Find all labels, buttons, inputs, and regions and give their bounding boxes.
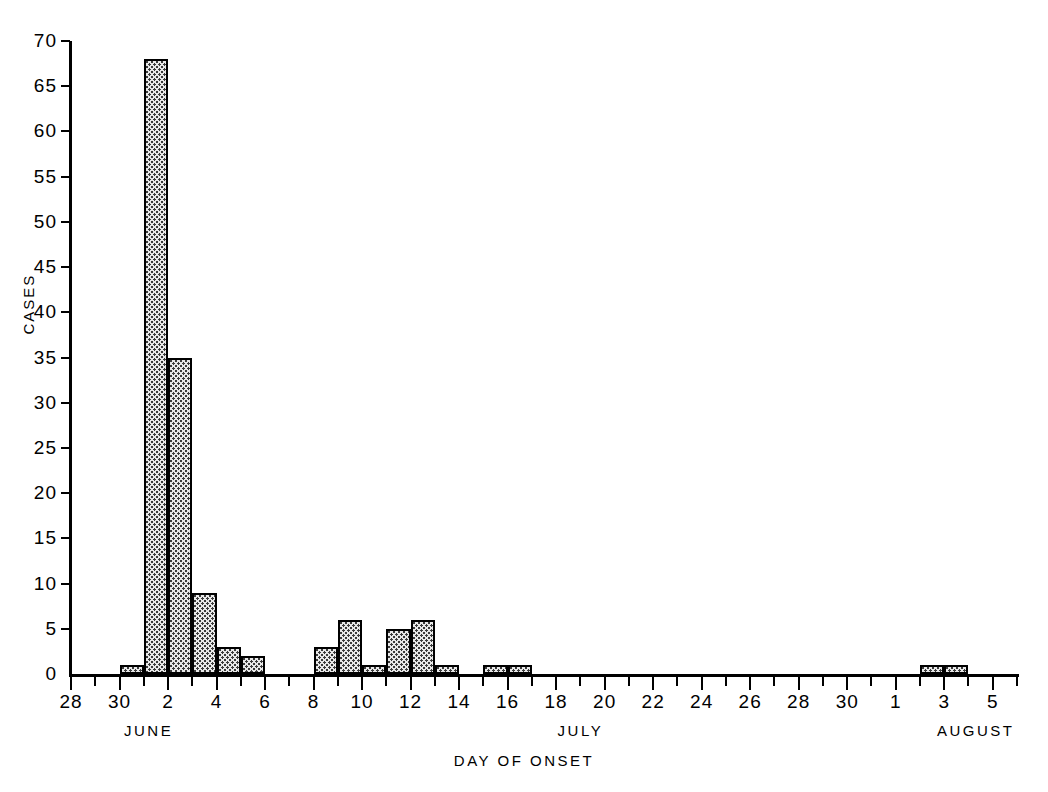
y-tick-mark	[61, 537, 70, 539]
bar	[386, 629, 410, 674]
x-tick-label: 18	[536, 691, 576, 713]
y-tick-label: 45	[0, 256, 57, 278]
x-tick-mark	[216, 677, 218, 690]
y-tick-mark	[61, 357, 70, 359]
bar	[483, 665, 507, 674]
bar	[508, 665, 532, 674]
x-tick-mark	[701, 677, 703, 690]
month-label-june: JUNE	[124, 722, 173, 739]
x-tick-mark	[337, 677, 339, 686]
bar	[144, 59, 168, 674]
bar	[314, 647, 338, 674]
bar	[168, 358, 192, 675]
x-tick-label: 26	[730, 691, 770, 713]
x-tick-mark	[652, 677, 654, 690]
x-tick-label: 22	[633, 691, 673, 713]
x-tick-mark	[604, 677, 606, 690]
x-tick-mark	[798, 677, 800, 690]
y-tick-mark	[61, 40, 70, 42]
bar	[338, 620, 362, 674]
x-tick-mark	[822, 677, 824, 686]
x-tick-mark	[191, 677, 193, 686]
y-tick-label: 15	[0, 527, 57, 549]
x-tick-label: 1	[876, 691, 916, 713]
x-tick-mark	[434, 677, 436, 686]
x-tick-mark	[458, 677, 460, 690]
y-tick-label: 0	[0, 663, 57, 685]
y-tick-label: 65	[0, 75, 57, 97]
bar	[944, 665, 968, 674]
x-tick-mark	[70, 677, 72, 690]
bar	[920, 665, 944, 674]
y-tick-mark	[61, 402, 70, 404]
x-tick-mark	[846, 677, 848, 690]
x-tick-label: 30	[100, 691, 140, 713]
bar	[435, 665, 459, 674]
x-tick-label: 4	[197, 691, 237, 713]
x-tick-mark	[579, 677, 581, 686]
x-tick-label: 30	[827, 691, 867, 713]
y-tick-label: 40	[0, 301, 57, 323]
x-tick-mark	[264, 677, 266, 690]
x-tick-label: 3	[924, 691, 964, 713]
x-tick-label: 5	[973, 691, 1013, 713]
x-tick-mark	[531, 677, 533, 686]
x-tick-mark	[628, 677, 630, 686]
bar	[411, 620, 435, 674]
x-tick-label: 28	[51, 691, 91, 713]
y-tick-label: 30	[0, 392, 57, 414]
x-tick-mark	[749, 677, 751, 690]
y-tick-label: 50	[0, 211, 57, 233]
x-tick-mark	[288, 677, 290, 686]
x-tick-mark	[943, 677, 945, 690]
bar	[241, 656, 265, 674]
x-tick-mark	[385, 677, 387, 686]
y-tick-label: 20	[0, 482, 57, 504]
y-tick-mark	[61, 85, 70, 87]
y-tick-label: 25	[0, 437, 57, 459]
bar	[217, 647, 241, 674]
x-tick-label: 28	[779, 691, 819, 713]
x-tick-mark	[555, 677, 557, 690]
y-tick-mark	[61, 583, 70, 585]
y-tick-mark	[61, 447, 70, 449]
plot-area	[71, 41, 1017, 674]
y-tick-mark	[61, 628, 70, 630]
x-tick-label: 12	[391, 691, 431, 713]
x-tick-mark	[919, 677, 921, 686]
y-tick-mark	[61, 221, 70, 223]
y-tick-label: 5	[0, 618, 57, 640]
month-label-august: AUGUST	[937, 722, 1015, 739]
y-tick-mark	[61, 176, 70, 178]
x-tick-mark	[240, 677, 242, 686]
x-tick-mark	[725, 677, 727, 686]
y-tick-mark	[61, 311, 70, 313]
x-axis-title: DAY OF ONSET	[0, 752, 1048, 769]
y-tick-mark	[61, 130, 70, 132]
bar	[362, 665, 386, 674]
x-tick-label: 2	[148, 691, 188, 713]
x-tick-mark	[410, 677, 412, 690]
x-tick-label: 24	[682, 691, 722, 713]
bar	[192, 593, 216, 674]
x-tick-mark	[773, 677, 775, 686]
x-tick-label: 10	[342, 691, 382, 713]
x-tick-label: 20	[585, 691, 625, 713]
x-tick-mark	[507, 677, 509, 690]
x-tick-mark	[361, 677, 363, 690]
y-tick-mark	[61, 266, 70, 268]
y-tick-label: 55	[0, 166, 57, 188]
x-tick-mark	[1016, 677, 1018, 686]
y-tick-label: 70	[0, 30, 57, 52]
x-tick-label: 6	[245, 691, 285, 713]
x-tick-mark	[167, 677, 169, 690]
y-tick-label: 60	[0, 120, 57, 142]
bar	[120, 665, 144, 674]
month-label-july: JULY	[558, 722, 604, 739]
x-tick-mark	[895, 677, 897, 690]
x-tick-label: 14	[439, 691, 479, 713]
x-tick-mark	[94, 677, 96, 686]
x-tick-mark	[482, 677, 484, 686]
x-tick-mark	[676, 677, 678, 686]
x-tick-label: 16	[488, 691, 528, 713]
